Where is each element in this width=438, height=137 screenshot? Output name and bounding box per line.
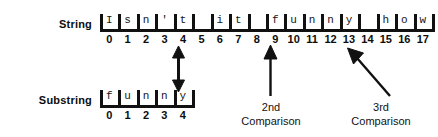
first-comparison-arrow-head-down (173, 80, 185, 92)
second-comparison-label: 2nd Comparison (232, 100, 310, 128)
first-comparison-arrow-head-up (173, 46, 185, 58)
diagram-canvas: String Substring Isn't it funny how 0123… (0, 0, 438, 137)
third-comparison-arrow-shaft (357, 58, 390, 96)
second-comparison-arrow-head (264, 45, 277, 59)
third-comparison-label: 3rd Comparison (341, 100, 421, 128)
